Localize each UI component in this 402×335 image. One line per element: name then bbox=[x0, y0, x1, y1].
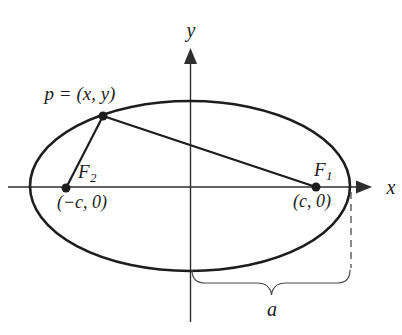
focus-f2-label: F2 bbox=[77, 161, 97, 185]
focus-f1-label: F1 bbox=[313, 159, 333, 183]
y-axis-label: y bbox=[185, 19, 196, 42]
focus-f2-letter: F bbox=[77, 161, 90, 182]
semi-major-brace bbox=[192, 270, 350, 295]
x-axis-label: x bbox=[386, 176, 396, 198]
focus-f1-subscript: 1 bbox=[326, 168, 333, 183]
focal-line-to-f1 bbox=[103, 116, 316, 187]
point-p-dot bbox=[99, 112, 108, 121]
semi-major-label: a bbox=[267, 298, 277, 320]
x-axis-arrowhead bbox=[356, 181, 372, 194]
point-p-label: p = (x, y) bbox=[43, 83, 116, 105]
focus-f1-letter: F bbox=[313, 159, 326, 180]
ellipse-foci-diagram: y x p = (x, y) F2 (−c, 0) F1 (c, 0) a bbox=[0, 0, 402, 335]
diagram-canvas: y x p = (x, y) F2 (−c, 0) F1 (c, 0) a bbox=[0, 0, 402, 335]
focus-f2-subscript: 2 bbox=[90, 170, 97, 185]
y-axis-arrowhead bbox=[184, 48, 197, 64]
focus-f2-coordinates: (−c, 0) bbox=[57, 192, 107, 213]
focus-f1-coordinates: (c, 0) bbox=[293, 191, 331, 212]
